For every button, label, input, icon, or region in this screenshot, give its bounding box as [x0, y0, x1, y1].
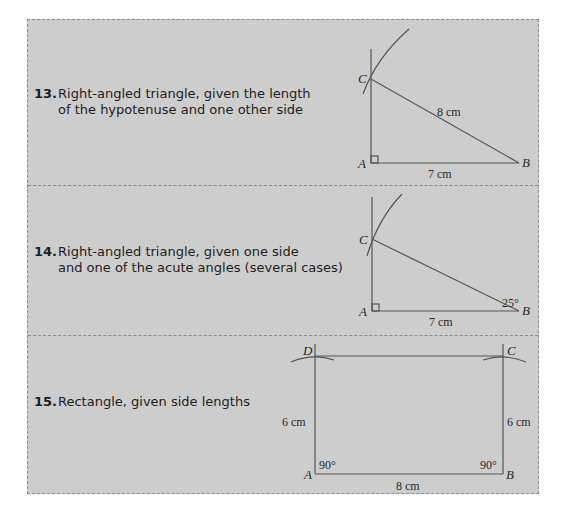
vertex-a-label: A — [303, 467, 312, 482]
vertex-b-label: B — [522, 303, 530, 318]
construction-item-14: 14.Right-angled triangle, given one side… — [28, 185, 538, 335]
vertex-a-label: A — [358, 304, 367, 319]
hypotenuse-line — [371, 79, 519, 163]
hypotenuse-line — [372, 239, 519, 311]
base-length-label: 7 cm — [429, 315, 453, 329]
construction-item-15: 15.Rectangle, given side lengths D C A B… — [28, 335, 538, 495]
construction-item-13: 13.Right-angled triangle, given the leng… — [28, 20, 538, 185]
constructions-panel: 13.Right-angled triangle, given the leng… — [27, 19, 539, 494]
left-side-length-label: 6 cm — [282, 415, 306, 429]
right-angle-marker — [372, 304, 379, 311]
triangle-13-figure: C A B 8 cm 7 cm — [28, 20, 540, 185]
rectangle-15-figure: D C A B 6 cm 6 cm 8 cm 90° 90° — [28, 336, 540, 496]
compass-arc-d — [291, 357, 334, 362]
hypotenuse-length-label: 8 cm — [437, 105, 461, 119]
vertex-c-label: C — [359, 232, 368, 247]
vertex-c-label: C — [358, 71, 367, 86]
vertex-b-label: B — [506, 467, 514, 482]
vertex-a-label: A — [357, 156, 366, 171]
angle-b-label: 90° — [480, 458, 497, 472]
vertex-b-label: B — [522, 155, 530, 170]
vertex-d-label: D — [302, 343, 313, 358]
compass-arc-c — [483, 357, 526, 362]
right-angle-marker — [371, 156, 378, 163]
compass-arc — [363, 29, 409, 94]
angle-a-label: 90° — [319, 458, 336, 472]
bottom-side-length-label: 8 cm — [396, 479, 420, 493]
base-length-label: 7 cm — [428, 167, 452, 181]
right-side-length-label: 6 cm — [507, 415, 531, 429]
vertex-c-label: C — [507, 343, 516, 358]
triangle-14-figure: C A B 25° 7 cm — [28, 186, 540, 336]
angle-b-label: 25° — [502, 296, 519, 310]
